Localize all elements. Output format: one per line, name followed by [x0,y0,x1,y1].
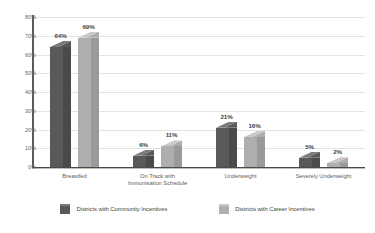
bar-front-face [244,137,265,167]
x-axis-shadow [32,168,365,169]
bar-value-label: 16% [248,122,260,129]
bar-top-face [327,157,348,163]
y-tick-label: 70% [10,33,36,39]
bar-top-face [78,32,99,38]
bar-group: 64%69% [33,17,116,167]
bar-chart: 64%69%6%11%21%16%5%2% 0%10%20%30%40%50%6… [0,0,375,233]
bar[interactable]: 64% [50,47,71,167]
bar-top-face [161,140,182,146]
bar-body [50,47,71,167]
bar-value-label: 69% [82,23,94,30]
y-tick-label: 40% [10,89,36,95]
category-label: On Track with Immunisation Schedule [116,173,199,188]
bar[interactable]: 21% [216,128,237,167]
bar-top-face [133,150,154,156]
bar-value-label: 64% [54,32,66,39]
bar-body [216,128,237,167]
category-label: Underweight [199,173,282,180]
y-tick-label: 60% [10,52,36,58]
bar-top-face [216,122,237,128]
bar-top-face [244,131,265,137]
bar[interactable]: 16% [244,137,265,167]
bar-group: 21%16% [199,17,282,167]
legend-label: Districts with Career Incentives [235,206,314,212]
legend-item[interactable]: Districts with Community Incentives [60,204,167,214]
bar[interactable]: 69% [78,38,99,167]
y-tick-label: 50% [10,70,36,76]
bar[interactable]: 6% [133,156,154,167]
bar-top-face [50,41,71,47]
plot-area: 64%69%6%11%21%16%5%2% [33,17,365,167]
y-tick-label: 10% [10,145,36,151]
y-tick-label: 20% [10,127,36,133]
legend-label: Districts with Community Incentives [76,206,167,212]
bar-group: 6%11% [116,17,199,167]
bar-value-label: 5% [305,143,314,150]
bar-value-label: 2% [333,148,342,155]
bar-body [244,137,265,167]
legend-item[interactable]: Districts with Career Incentives [219,204,314,214]
bar-front-face [50,47,71,167]
category-label: Breastfed [33,173,116,180]
legend-swatch [60,204,70,214]
chart-legend: Districts with Community IncentivesDistr… [0,204,375,214]
bar-value-label: 6% [139,141,148,148]
legend-swatch-top [60,204,70,206]
bar-body [161,146,182,167]
bar-top-face [299,152,320,158]
bar-body [78,38,99,167]
bar-front-face [78,38,99,167]
bar-front-face [133,156,154,167]
legend-swatch-top [219,204,229,206]
bar-front-face [161,146,182,167]
bar-value-label: 21% [220,113,232,120]
y-tick-label: 30% [10,108,36,114]
bar-group: 5%2% [282,17,365,167]
bar-front-face [216,128,237,167]
category-label: Severely Underweight [282,173,365,180]
bar[interactable]: 11% [161,146,182,167]
y-tick-label: 0% [10,164,36,170]
legend-swatch [219,204,229,214]
bar-value-label: 11% [166,131,178,138]
y-tick-label: 80% [10,14,36,20]
bar-body [133,156,154,167]
